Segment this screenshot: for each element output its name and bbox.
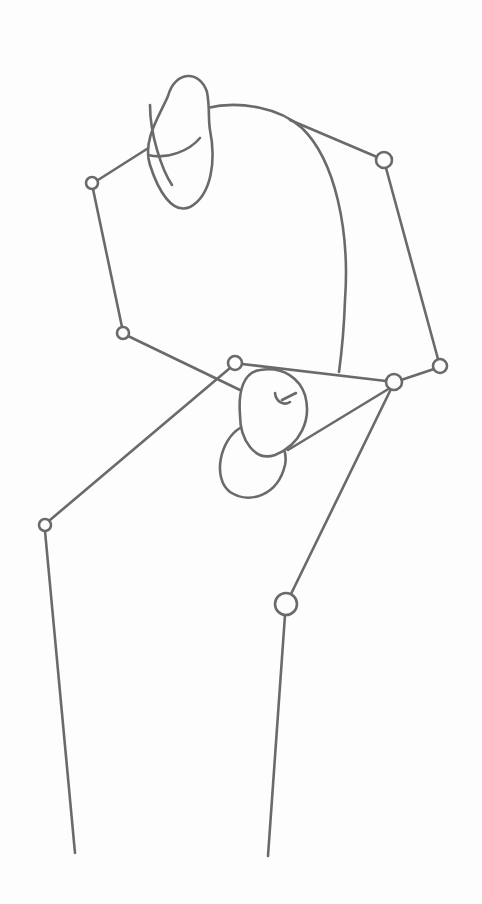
joint-elbow-right [433,359,447,373]
wrist-link-right [401,369,434,380]
joint-shoulder-right [376,152,392,168]
joint-hip-right [386,374,402,390]
joint-elbow-left [117,327,129,339]
forearm-left [93,189,122,327]
shin-left [45,531,75,853]
shin-right [268,615,285,856]
joint-hip-left [228,356,242,370]
joint-knee-left [39,519,51,531]
joint-knee-right [275,593,297,615]
thigh-left [50,368,230,520]
arm-to-hip-left [128,336,240,390]
joint-shoulder-left [86,177,98,189]
shoulder-line-right [290,120,377,157]
mannequin-drawing [0,0,482,904]
head-outline [148,76,213,209]
upper-arm-left [98,147,150,180]
forearm-right [386,168,438,359]
torso-outline [207,105,346,372]
